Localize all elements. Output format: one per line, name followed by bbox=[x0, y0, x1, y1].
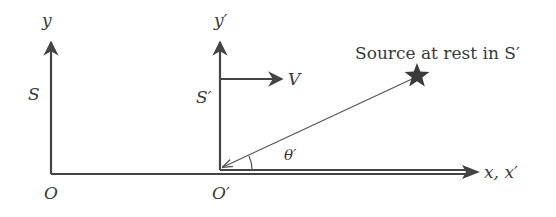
light-ray bbox=[223, 79, 412, 167]
x-axis-arrowhead bbox=[462, 165, 480, 179]
relativity-frames-diagram: y S O y′ S′ O′ V x, x′ θ′ Source at rest… bbox=[0, 0, 556, 217]
shared-x-axis-label: x, x′ bbox=[484, 162, 518, 182]
angle-label: θ′ bbox=[284, 146, 297, 164]
s-frame-label: S bbox=[28, 84, 40, 104]
frame-s: y S O bbox=[28, 10, 470, 203]
star-icon bbox=[405, 63, 430, 86]
velocity-label: V bbox=[288, 69, 302, 89]
s-prime-origin-label: O′ bbox=[212, 183, 230, 203]
source-label: Source at rest in S′ bbox=[355, 43, 520, 63]
s-prime-frame-label: S′ bbox=[196, 87, 212, 107]
s-prime-y-axis-label: y′ bbox=[213, 10, 228, 30]
s-y-axis-label: y bbox=[41, 10, 52, 30]
s-origin-label: O bbox=[44, 183, 58, 203]
angle-arc bbox=[249, 156, 252, 170]
